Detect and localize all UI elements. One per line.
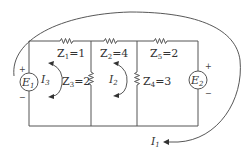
arrowhead-icon bbox=[48, 94, 54, 99]
arrowhead-icon bbox=[113, 93, 119, 98]
label-i1: I1 bbox=[150, 135, 160, 149]
e2-minus-sign: − bbox=[205, 89, 212, 98]
label-e2: E2 bbox=[190, 74, 204, 88]
label-z1: Z1=1 bbox=[57, 47, 85, 61]
label-z4: Z4=3 bbox=[143, 75, 171, 89]
loop-arrow-i3 bbox=[52, 64, 62, 96]
top-wire bbox=[29, 39, 198, 44]
label-z5: Z5=2 bbox=[150, 47, 178, 61]
e1-minus-sign: − bbox=[19, 93, 26, 102]
label-z3: Z3=2 bbox=[62, 75, 90, 89]
label-e1: E1 bbox=[21, 76, 35, 90]
label-z2: Z2=4 bbox=[100, 47, 128, 61]
arrowhead-icon bbox=[113, 61, 119, 66]
loop-arrow-i2 bbox=[117, 64, 127, 95]
label-i2: I2 bbox=[108, 73, 118, 87]
arrowhead-icon bbox=[163, 139, 169, 145]
circuit-diagram: Z1=1 Z2=4 Z5=2 Z3=2 Z4=3 E1 E2 + − + − I… bbox=[0, 0, 252, 152]
arrowhead-icon bbox=[48, 61, 54, 66]
e1-plus-sign: + bbox=[19, 65, 26, 74]
label-i3: I3 bbox=[40, 73, 50, 87]
e2-plus-sign: + bbox=[205, 62, 212, 71]
z4-branch-wire bbox=[135, 41, 140, 126]
